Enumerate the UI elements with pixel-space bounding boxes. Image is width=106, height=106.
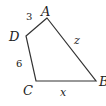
vertex-label-a: A <box>40 4 50 19</box>
side-label-cb: x <box>60 86 67 99</box>
quadrilateral-diagram: A D C B 3 6 z x <box>0 0 106 106</box>
side-label-ab: z <box>73 34 80 47</box>
side-label-ad: 3 <box>26 11 32 22</box>
side-label-dc: 6 <box>16 58 22 69</box>
vertex-label-b: B <box>98 74 106 89</box>
vertex-label-c: C <box>23 83 33 98</box>
vertex-label-d: D <box>8 29 20 44</box>
quadrilateral-shape <box>26 18 96 81</box>
